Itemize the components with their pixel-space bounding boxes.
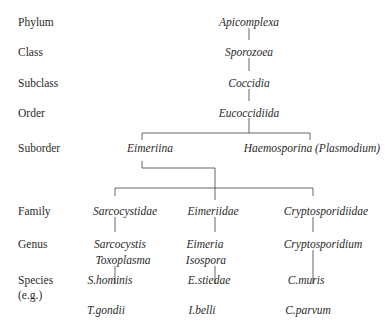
taxon-genus-eimeria: Eimeria	[186, 238, 223, 250]
taxon-species-c-muris: C.muris	[288, 274, 325, 286]
rank-order: Order	[18, 107, 45, 119]
taxon-family-cryptosporidiidae: Cryptosporidiidae	[284, 205, 368, 217]
taxon-class: Sporozoea	[225, 46, 273, 58]
rank-subclass: Subclass	[18, 77, 58, 89]
rank-class: Class	[18, 46, 43, 58]
rank-genus: Genus	[18, 238, 47, 250]
taxon-family-sarcocystidae: Sarcocystidae	[93, 205, 157, 217]
rank-suborder: Suborder	[18, 142, 60, 154]
taxon-suborder-haemosporina: Haemosporina (Plasmodium)	[244, 142, 380, 154]
taxon-species-i-belli: I.belli	[188, 304, 215, 316]
rank-family: Family	[18, 205, 51, 217]
rank-phylum: Phylum	[18, 16, 54, 28]
rank-species: Species	[18, 274, 53, 286]
taxon-species-s-hominis: S.hominis	[87, 274, 132, 286]
taxon-family-eimeriidae: Eimeriidae	[187, 205, 238, 217]
taxon-phylum: Apicomplexa	[219, 16, 279, 28]
taxon-subclass: Coccidia	[228, 77, 270, 89]
taxon-order: Eucoccidiida	[219, 107, 280, 119]
taxon-genus-cryptosporidium: Cryptosporidium	[284, 238, 363, 250]
taxon-genus-toxoplasma: Toxoplasma	[95, 254, 150, 266]
taxon-genus-sarcocystis: Sarcocystis	[94, 238, 146, 250]
taxon-species-c-parvum: C.parvum	[285, 304, 331, 316]
rank-species-eg: (e.g.)	[18, 289, 42, 301]
taxon-suborder-eimeriina: Eimeriina	[127, 142, 173, 154]
taxon-species-e-stiedae: E.stiedae	[188, 274, 230, 286]
taxon-genus-isospora: Isospora	[186, 254, 226, 266]
taxon-species-t-gondii: T.gondii	[87, 304, 125, 316]
